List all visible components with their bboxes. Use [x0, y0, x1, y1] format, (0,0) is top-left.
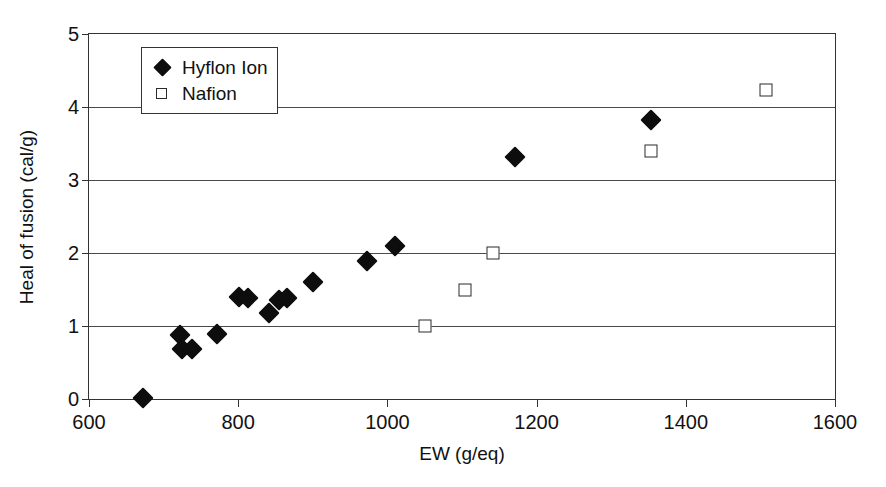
open-square-icon: [156, 88, 178, 99]
x-axis-title-text: EW (g/eq): [419, 443, 505, 464]
x-tick-1200: [537, 399, 538, 407]
data-point: [487, 247, 500, 260]
y-tick-3: [82, 180, 89, 181]
y-axis-title-text: Heal of fusion (cal/g): [16, 129, 38, 303]
x-tick-label-800: 800: [222, 412, 255, 432]
x-tick-1000: [387, 399, 388, 407]
x-tick-800: [238, 399, 239, 407]
data-point: [504, 146, 525, 167]
data-point: [302, 272, 323, 293]
filled-diamond-icon: [156, 61, 178, 74]
x-tick-label-1400: 1400: [664, 412, 709, 432]
y-tick-label-4: 4: [68, 97, 79, 117]
y-tick-label-5: 5: [68, 24, 79, 44]
y-axis-title: Heal of fusion (cal/g): [14, 33, 40, 400]
x-tick-label-600: 600: [72, 412, 105, 432]
y-tick-label-0: 0: [68, 389, 79, 409]
gridline-y-3: [89, 180, 835, 181]
data-point: [458, 284, 471, 297]
scatter-chart-figure: 0123456008001000120014001600 Heal of fus…: [0, 0, 886, 487]
y-tick-label-2: 2: [68, 243, 79, 263]
chart-legend: Hyflon Ion Nafion: [141, 47, 278, 114]
y-tick-label-1: 1: [68, 316, 79, 336]
y-tick-label-3: 3: [68, 170, 79, 190]
data-point: [641, 110, 662, 131]
x-tick-1400: [686, 399, 687, 407]
y-tick-0: [82, 399, 89, 400]
data-point: [132, 387, 153, 408]
gridline-y-2: [89, 253, 835, 254]
y-tick-2: [82, 253, 89, 254]
legend-label-hyflon-ion: Hyflon Ion: [182, 58, 268, 77]
x-tick-label-1200: 1200: [514, 412, 559, 432]
x-tick-label-1600: 1600: [813, 412, 858, 432]
x-tick-label-1000: 1000: [365, 412, 410, 432]
x-tick-1600: [835, 399, 836, 407]
gridline-y-1: [89, 326, 835, 327]
x-tick-600: [89, 399, 90, 407]
legend-entry-nafion: Nafion: [142, 80, 277, 106]
legend-label-nafion: Nafion: [182, 84, 237, 103]
y-tick-5: [82, 34, 89, 35]
x-axis-title: EW (g/eq): [88, 443, 836, 465]
data-point: [760, 84, 773, 97]
y-tick-1: [82, 326, 89, 327]
legend-entry-hyflon-ion: Hyflon Ion: [142, 54, 277, 80]
data-point: [419, 320, 432, 333]
y-tick-4: [82, 107, 89, 108]
data-point: [645, 144, 658, 157]
